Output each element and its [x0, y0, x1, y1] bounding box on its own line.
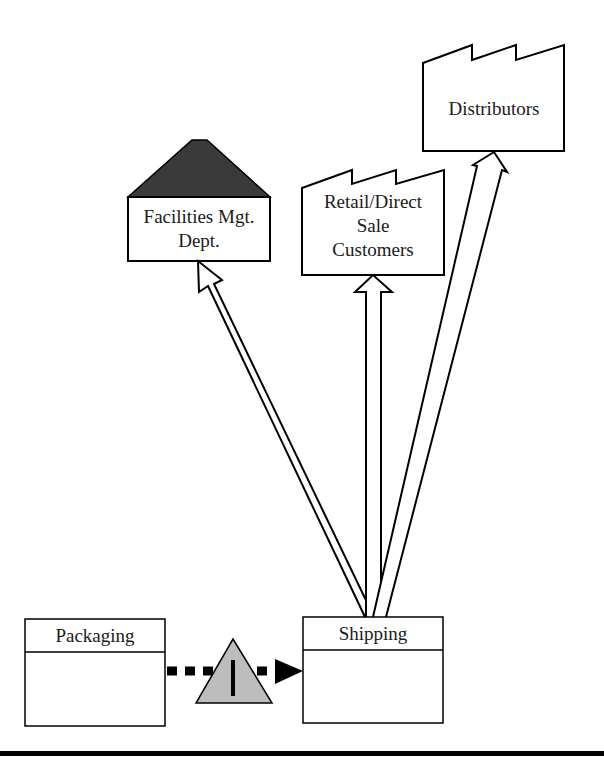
- distributors-label: Distributors: [423, 97, 565, 121]
- shipping-label: Shipping: [303, 622, 443, 646]
- shipment-arrow-to-facilities: [198, 261, 374, 617]
- roof-icon: [128, 140, 270, 197]
- facilities-label: Facilities Mgt. Dept.: [128, 205, 270, 253]
- inventory-bar-icon: [231, 660, 235, 696]
- bottom-rule: [0, 751, 604, 756]
- retail-label: Retail/Direct Sale Customers: [302, 190, 444, 262]
- packaging-label: Packaging: [25, 624, 165, 648]
- push-arrowhead-icon: [275, 659, 303, 684]
